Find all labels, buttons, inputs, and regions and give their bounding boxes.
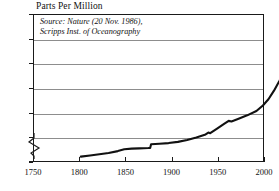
y-tick-300 (29, 113, 33, 114)
y-tick-340 (29, 63, 33, 64)
source-line-1: Source: Nature (20 Nov. 1986), (40, 17, 142, 27)
axis-break-icon (27, 133, 41, 159)
chart-title: Parts Per Million (36, 1, 103, 11)
y-tick-320 (29, 88, 33, 89)
data-curve-svg (67, 29, 279, 177)
chart-root: Parts Per Million Source: Nature (20 Nov… (0, 0, 279, 191)
x-tick-label-1800: 1800 (59, 167, 99, 177)
x-tick-label-1750: 1750 (13, 167, 53, 177)
x-axis-line (33, 161, 264, 162)
co2-series-line (81, 49, 279, 157)
x-tick-label-1850: 1850 (105, 167, 145, 177)
x-tick-2000 (264, 157, 265, 162)
x-tick-label-2000: 2000 (244, 167, 279, 177)
source-annotation: Source: Nature (20 Nov. 1986), Scripps I… (40, 17, 142, 37)
x-tick-label-1900: 1900 (152, 167, 192, 177)
source-line-2: Scripps Inst. of Oceanography (40, 27, 142, 37)
x-tick-label-1950: 1950 (198, 167, 238, 177)
y-tick-360 (29, 39, 33, 40)
y-tick-380 (29, 14, 33, 15)
